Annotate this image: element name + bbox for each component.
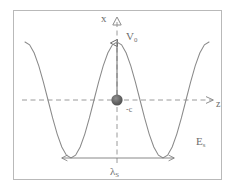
amplitude-label-v0: V0 [126,31,137,42]
center-point-label: -c [126,106,132,114]
field-label-base: E [196,135,203,147]
wavelength-label-lambda-s: λS [110,166,119,177]
axis-label-x: x [101,13,107,24]
origin-dot [111,94,122,105]
diagram-canvas [0,0,238,191]
amplitude-label-subscript: 0 [134,36,137,43]
figure-root: x V0 z -c Es λS [0,0,238,191]
wavelength-label-subscript: S [115,171,119,178]
axis-label-z: z [216,99,220,109]
amplitude-label-base: V [126,30,134,42]
field-label-es: Es [196,136,205,147]
field-label-subscript: s [203,141,206,148]
